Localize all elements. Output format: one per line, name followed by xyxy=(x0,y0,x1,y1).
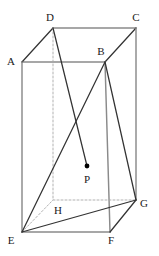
edge-e-b xyxy=(22,62,105,232)
vertex-label-p: P xyxy=(84,173,90,185)
point-marker-layer xyxy=(85,164,90,169)
edge-b-f xyxy=(105,62,110,232)
edge-a-d xyxy=(22,28,53,62)
edge-b-c xyxy=(105,28,136,62)
vertex-label-b: B xyxy=(97,45,104,57)
edge-d-p xyxy=(53,28,87,166)
edge-b-g xyxy=(105,62,136,200)
vertex-label-a: A xyxy=(7,55,15,67)
prism-diagram: ABCDEFGHP xyxy=(0,0,159,256)
vertex-label-h: H xyxy=(54,204,62,216)
vertex-label-d: D xyxy=(46,11,54,23)
vertex-label-f: F xyxy=(108,234,114,246)
edge-e-g xyxy=(22,200,136,232)
edge-f-g xyxy=(110,200,136,232)
point-marker-p xyxy=(85,164,90,169)
vertex-label-g: G xyxy=(140,197,148,209)
edge-layer xyxy=(22,28,136,232)
vertex-label-e: E xyxy=(8,234,15,246)
vertex-label-c: C xyxy=(132,11,139,23)
